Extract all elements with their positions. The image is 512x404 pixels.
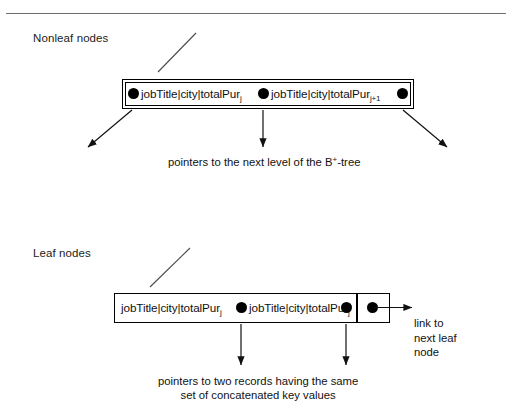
nonleaf-key-1: jobTitle|city|totalPurj bbox=[141, 87, 242, 100]
nonleaf-pointers-caption-pre: pointers to the next level of the B bbox=[168, 156, 333, 168]
nonleaf-pointer-dot-1 bbox=[128, 88, 139, 99]
nonleaf-leader-line bbox=[158, 33, 196, 72]
leaf-key-1: jobTitle|city|totalPurj bbox=[121, 301, 222, 314]
leaf-pointers-caption: pointers to two records having the same … bbox=[158, 374, 358, 402]
nonleaf-pointer-arrow-3 bbox=[403, 110, 447, 147]
next-leaf-link-caption-line3: node bbox=[414, 345, 457, 360]
nonleaf-key-1-text: jobTitle|city|totalPur bbox=[141, 87, 240, 100]
btree-index-figure: Nonleaf nodes jobTitle|city|totalPurj jo… bbox=[0, 0, 512, 404]
leaf-key-1-text: jobTitle|city|totalPur bbox=[121, 301, 220, 314]
nonleaf-pointer-dot-2 bbox=[258, 88, 269, 99]
leaf-node-compartment-divider bbox=[356, 293, 358, 323]
leaf-leader-line bbox=[150, 248, 190, 287]
nonleaf-pointer-dot-3 bbox=[397, 88, 408, 99]
next-leaf-link-caption-line1: link to bbox=[414, 316, 457, 331]
leaf-key-2-text: jobTitle|city|totalPur bbox=[249, 301, 348, 314]
leaf-pointers-caption-line1: pointers to two records having the same bbox=[158, 374, 358, 388]
next-leaf-link-caption: link to next leaf node bbox=[414, 316, 457, 360]
nonleaf-key-1-subscript: j bbox=[240, 94, 242, 103]
nonleaf-pointers-caption-post: -tree bbox=[337, 156, 360, 168]
nonleaf-key-2: jobTitle|city|totalPurj+1 bbox=[271, 87, 380, 100]
leaf-pointer-dot-2 bbox=[341, 302, 352, 313]
top-divider-rule bbox=[6, 13, 506, 14]
leaf-next-link-dot bbox=[367, 302, 378, 313]
leaf-pointer-dot-1 bbox=[236, 302, 247, 313]
leaf-key-2: jobTitle|city|totalPurj bbox=[249, 301, 350, 314]
next-leaf-link-caption-line2: next leaf bbox=[414, 331, 457, 346]
leaf-key-1-subscript: j bbox=[220, 308, 222, 317]
leaf-section-label: Leaf nodes bbox=[33, 247, 91, 259]
nonleaf-key-2-text: jobTitle|city|totalPur bbox=[271, 87, 370, 100]
nonleaf-pointers-caption: pointers to the next level of the B+-tre… bbox=[168, 155, 360, 171]
nonleaf-section-label: Nonleaf nodes bbox=[33, 32, 108, 44]
nonleaf-pointer-arrow-1 bbox=[88, 110, 132, 147]
leaf-pointers-caption-line2: set of concatenated key values bbox=[158, 388, 358, 402]
nonleaf-pointers-caption-sup: + bbox=[333, 155, 338, 164]
nonleaf-key-2-subscript: j+1 bbox=[370, 94, 380, 103]
